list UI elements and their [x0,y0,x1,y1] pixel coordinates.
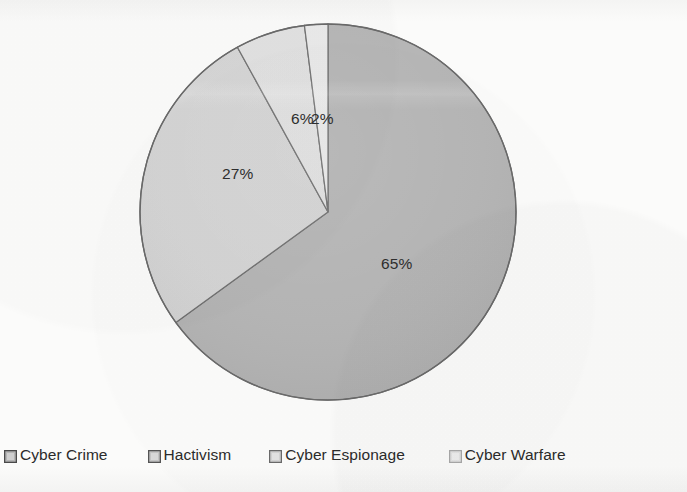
legend-item-cyber-warfare[interactable]: Cyber Warfare [449,446,566,464]
legend-item-hactivism[interactable]: Hactivism [148,446,232,464]
legend-item-cyber-espionage[interactable]: Cyber Espionage [269,446,405,464]
legend-label: Hactivism [164,446,232,464]
pie-data-label-hactivism: 27% [222,165,253,183]
chart-legend: Cyber Crime Hactivism Cyber Espionage Cy… [0,440,687,470]
legend-swatch-icon [148,449,161,462]
legend-label: Cyber Espionage [285,446,405,464]
legend-swatch-icon [449,449,462,462]
pie-scan-sheen [140,24,516,400]
legend-swatch-icon [4,449,17,462]
pie-data-label-cyber-warfare: 2% [311,110,334,128]
chart-plot-area: 65% 27% 6% 2% [0,0,687,420]
pie-data-label-cyber-crime: 65% [381,255,412,273]
pie-chart [0,0,687,420]
legend-label: Cyber Crime [20,446,108,464]
legend-item-cyber-crime[interactable]: Cyber Crime [4,446,108,464]
legend-swatch-icon [269,449,282,462]
legend-label: Cyber Warfare [465,446,566,464]
